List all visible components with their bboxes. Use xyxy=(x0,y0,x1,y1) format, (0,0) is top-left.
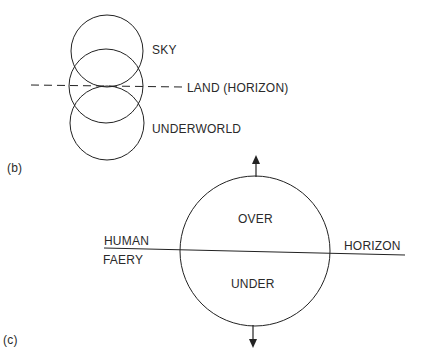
sky-circle xyxy=(71,15,143,87)
sky-label: SKY xyxy=(152,43,177,57)
up-arrowhead-icon xyxy=(252,155,260,164)
figure-b-shapes xyxy=(31,15,182,160)
world-circle xyxy=(180,176,330,326)
under-label: UNDER xyxy=(231,277,275,291)
horizon-label: HORIZON xyxy=(344,239,401,253)
land-horizon-label: LAND (HORIZON) xyxy=(187,81,288,95)
panel-label-c: (c) xyxy=(3,333,18,347)
over-label: OVER xyxy=(238,212,273,226)
panel-label-b: (b) xyxy=(7,161,22,175)
down-arrowhead-icon xyxy=(249,339,257,348)
diagram-canvas xyxy=(0,0,423,356)
human-label: HUMAN xyxy=(104,234,149,248)
faery-label: FAERY xyxy=(103,253,143,267)
underworld-label: UNDERWORLD xyxy=(152,122,241,136)
